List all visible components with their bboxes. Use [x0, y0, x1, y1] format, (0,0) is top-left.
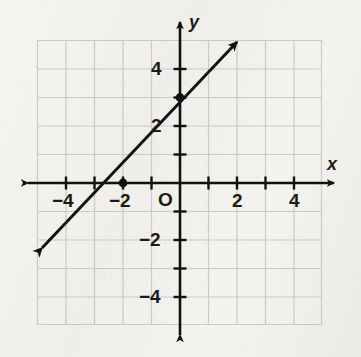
graph-svg — [0, 0, 361, 357]
point-x-intercept — [119, 179, 128, 188]
y-tick-label-4: 4 — [151, 59, 162, 78]
y-tick-label-2: 2 — [151, 116, 162, 135]
x-tick-label-neg2: −2 — [109, 191, 131, 210]
x-tick-label-4: 4 — [289, 191, 300, 210]
x-tick-label-2: 2 — [232, 191, 243, 210]
origin-label: O — [158, 190, 173, 209]
plotted-line — [42, 42, 237, 248]
y-tick-label-neg2: −2 — [139, 230, 161, 249]
x-tick-label-neg4: −4 — [52, 191, 74, 210]
y-tick-label-neg4: −4 — [139, 287, 161, 306]
x-axis-label: x — [327, 155, 337, 173]
coordinate-plane-figure: x y O −4 −2 2 4 4 2 −2 −4 — [0, 0, 361, 357]
y-axis-label: y — [189, 13, 199, 31]
point-y-intercept — [176, 93, 185, 102]
